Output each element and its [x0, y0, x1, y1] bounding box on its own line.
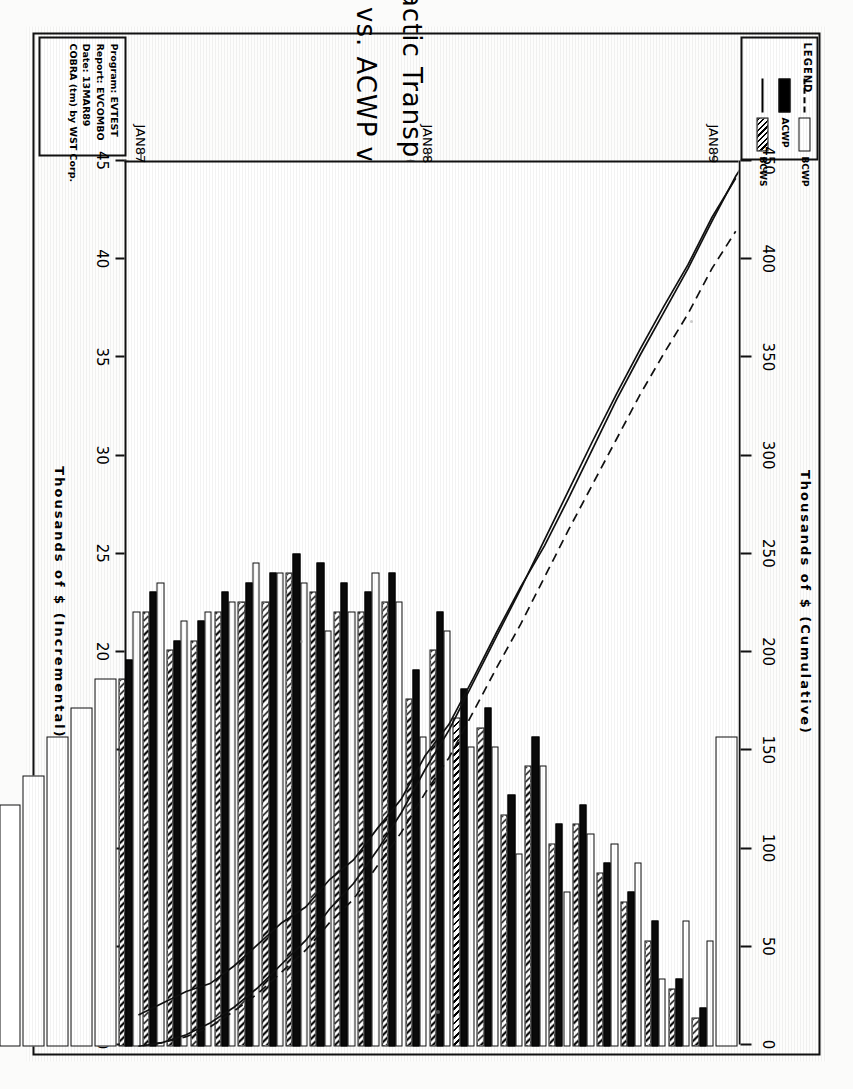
bar-bcws [635, 863, 642, 1047]
cumulative-axis-tick-label: 150 [759, 736, 777, 765]
bar-acwp [508, 795, 515, 1047]
cumulative-axis-rail [739, 161, 741, 1045]
bar-acwp [460, 689, 467, 1047]
bar-bcws [396, 601, 403, 1046]
bar-bcwp [214, 611, 221, 1046]
category-label-jan87: JAN87 [132, 125, 147, 164]
bar-acwp [651, 921, 658, 1047]
bar-bcws [444, 630, 451, 1046]
bar-bcwp [334, 611, 341, 1046]
bar-bcws [324, 630, 331, 1046]
bar-bcwp [381, 601, 388, 1046]
bar-bcwp [142, 611, 149, 1046]
bar-acwp [197, 621, 204, 1047]
bar-bcws [539, 766, 546, 1047]
report-label: Report: [95, 44, 106, 84]
rotated-chart-canvas: LEGEND BCWP ACWP BCWS Intergalactic Tran… [27, 27, 827, 1062]
bar-acwp [341, 582, 348, 1046]
bar-bcwp [238, 601, 245, 1046]
incremental-axis-tick-label: 30 [93, 446, 111, 465]
bar-bcws [563, 892, 570, 1047]
incremental-axis-tick-label: 45 [93, 151, 111, 170]
bar-acwp [699, 1008, 706, 1047]
bar-acwp [627, 892, 634, 1047]
hollow-bar-icon [799, 118, 811, 152]
scanned-chart-page: LEGEND BCWP ACWP BCWS Intergalactic Tran… [0, 0, 853, 1089]
dashed-line-icon [804, 79, 806, 113]
legend-label-acwp: ACWP [780, 118, 790, 148]
incremental-axis-tick-label: 20 [93, 642, 111, 661]
bar-bcwp [692, 1017, 699, 1046]
incremental-axis-tick-label: 35 [93, 347, 111, 366]
bar-bcwp [119, 679, 126, 1047]
cumulative-axis-tick [741, 749, 752, 751]
black-bar-icon [779, 79, 791, 113]
bar-bcws [659, 979, 666, 1047]
incremental-axis-tick-label: 40 [93, 249, 111, 268]
bar-bcws [95, 679, 117, 1047]
bar-bcws [0, 805, 21, 1047]
bar-acwp [150, 592, 157, 1047]
bar-acwp [126, 660, 133, 1047]
category-label-jan89: JAN89 [706, 125, 721, 164]
bar-bcws [71, 708, 93, 1047]
bar-bcwp [310, 592, 317, 1047]
cumulative-axis-tick-label: 450 [759, 146, 777, 175]
cumulative-axis-tick-label: 250 [759, 539, 777, 568]
bar-acwp [556, 824, 563, 1047]
date-value: 13MAR89 [81, 76, 92, 127]
bar-bcws [372, 572, 379, 1046]
bar-acwp [221, 592, 228, 1047]
bar-acwp [532, 737, 539, 1047]
bar-bcwp [549, 843, 556, 1046]
bar-bcwp [572, 824, 579, 1047]
bar-bcwp [262, 601, 269, 1046]
cumulative-axis-tick [741, 552, 752, 554]
bar-bcwp [644, 940, 651, 1046]
bar-bcws [229, 601, 236, 1046]
report-value: EVCOMBO [95, 87, 106, 141]
cumulative-axis-tick [741, 454, 752, 456]
bar-bcws [420, 737, 427, 1047]
legend: LEGEND BCWP ACWP BCWS [741, 37, 819, 161]
program-label: Program: [109, 44, 120, 94]
bar-bcwp [620, 901, 627, 1046]
cumulative-axis-tick [741, 945, 752, 947]
bar-acwp [604, 863, 611, 1047]
bar-bcwp [357, 611, 364, 1046]
cumulative-axis-tick [741, 651, 752, 653]
incremental-axis-tick-label: 25 [93, 544, 111, 563]
bar-bcws [467, 747, 474, 1047]
legend-entry-acwp: ACWP [779, 79, 791, 148]
scan-speck [690, 320, 693, 323]
bar-bcwp [525, 766, 532, 1047]
bar-bcws [348, 611, 355, 1046]
solid-line-icon [762, 79, 764, 113]
bar-bcws [157, 582, 164, 1046]
bar-bcws [515, 853, 522, 1046]
bar-acwp [293, 553, 300, 1046]
bar-acwp [436, 611, 443, 1046]
bar-bcwp [501, 814, 508, 1046]
bar-acwp [317, 563, 324, 1047]
cumulative-axis-tick [741, 160, 752, 162]
bar-bcwp [405, 698, 412, 1046]
bar-bcws [205, 611, 212, 1046]
scan-speck [300, 640, 303, 643]
bar-bcws [587, 834, 594, 1047]
cumulative-axis-tick-label: 350 [759, 343, 777, 372]
category-label-jan88: JAN88 [419, 125, 434, 164]
bar-acwp [484, 708, 491, 1047]
bar-acwp [174, 640, 181, 1046]
cumulative-axis-tick-label: 50 [759, 937, 777, 956]
bar-acwp [245, 582, 252, 1046]
vendor-footer: COBRA (tm) by WST Corp. [65, 44, 79, 150]
bar-bcws [300, 582, 307, 1046]
scan-speck [436, 1010, 440, 1014]
bar-bcwp [596, 872, 603, 1046]
date-line: Date: 13MAR89 [79, 44, 93, 150]
bar-acwp [580, 805, 587, 1047]
report-line: Report: EVCOMBO [93, 44, 107, 150]
bar-bcwp [668, 988, 675, 1046]
bar-bcws [716, 737, 738, 1047]
